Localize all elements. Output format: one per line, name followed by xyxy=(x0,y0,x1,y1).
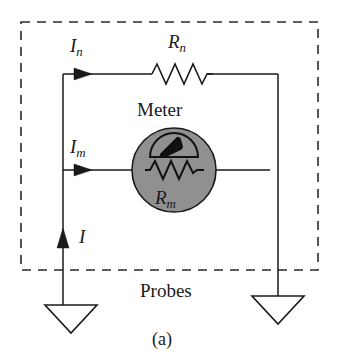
label-probes: Probes xyxy=(140,281,192,300)
I-arrow-icon xyxy=(57,228,69,248)
Im-arrow-icon xyxy=(74,164,92,176)
label-current-shunt: In xyxy=(70,36,83,59)
figure-caption: (a) xyxy=(152,330,172,348)
label-Rn-symbol: R xyxy=(168,31,180,52)
label-Im-subscript: m xyxy=(76,145,85,160)
label-Rm-subscript: m xyxy=(167,196,176,211)
label-I-symbol: I xyxy=(79,226,85,247)
right-probe-icon xyxy=(252,296,304,324)
label-Rm-symbol: R xyxy=(155,187,167,208)
label-current-meter: Im xyxy=(70,137,86,160)
label-In-subscript: n xyxy=(76,44,82,59)
ammeter-circuit-figure: In Rn Meter Im Rm I Probes (a) xyxy=(0,0,339,361)
label-resistor-meter: Rm xyxy=(155,188,176,211)
left-probe-icon xyxy=(45,305,97,333)
label-Rn-subscript: n xyxy=(180,40,186,55)
In-arrow-icon xyxy=(74,68,92,80)
label-meter-title: Meter xyxy=(137,100,182,119)
label-current-total: I xyxy=(79,227,85,250)
shunt-resistor-zigzag xyxy=(152,64,213,84)
label-resistor-shunt: Rn xyxy=(168,32,186,55)
